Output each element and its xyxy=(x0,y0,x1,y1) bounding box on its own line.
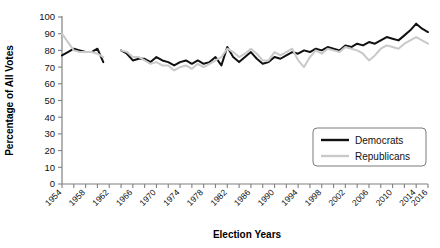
x-tick-label: 1962 xyxy=(90,187,111,208)
x-tick-label: 1998 xyxy=(303,187,324,208)
x-tick-label: 1990 xyxy=(255,187,276,208)
series-line-republicans xyxy=(62,34,103,57)
x-tick-label: 1974 xyxy=(161,187,182,208)
x-tick-label: 1954 xyxy=(43,187,64,208)
y-tick-label: 10 xyxy=(44,162,55,173)
series-line-democrats xyxy=(121,24,428,66)
y-tick-label: 80 xyxy=(44,45,55,56)
x-tick-label: 1958 xyxy=(67,187,88,208)
y-axis-title: Percentage of All Votes xyxy=(4,45,15,156)
x-tick-label: 1986 xyxy=(232,187,253,208)
y-tick-label: 60 xyxy=(44,78,55,89)
x-tick-label: 1982 xyxy=(208,187,229,208)
series-line-republicans xyxy=(121,37,428,70)
x-tick-label: 1966 xyxy=(114,187,135,208)
legend-label-democrats: Democrats xyxy=(355,135,403,146)
x-tick-label: 2010 xyxy=(374,187,395,208)
y-tick-label: 20 xyxy=(44,145,55,156)
x-tick-label: 1994 xyxy=(279,187,300,208)
y-tick-label: 40 xyxy=(44,112,55,123)
x-tick-label: 2006 xyxy=(350,187,371,208)
y-tick-label: 70 xyxy=(44,62,55,73)
chart-container: 0102030405060708090100195419581962196619… xyxy=(0,0,440,248)
y-tick-label: 0 xyxy=(50,178,55,189)
line-chart: 0102030405060708090100195419581962196619… xyxy=(0,0,440,248)
y-tick-label: 90 xyxy=(44,28,55,39)
x-tick-label: 1970 xyxy=(137,187,158,208)
y-tick-label: 50 xyxy=(44,95,55,106)
x-axis-title: Election Years xyxy=(213,229,282,240)
x-tick-label: 2002 xyxy=(326,187,347,208)
series-line-democrats xyxy=(62,49,103,62)
y-tick-label: 100 xyxy=(39,11,55,22)
legend-label-republicans: Republicans xyxy=(355,151,410,162)
y-tick-label: 30 xyxy=(44,128,55,139)
x-tick-label: 1978 xyxy=(185,187,206,208)
